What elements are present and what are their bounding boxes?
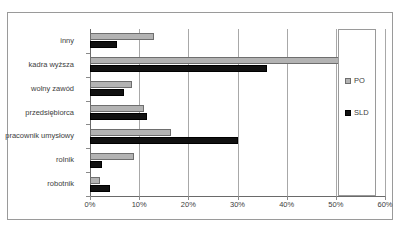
x-axis-tick-label: 10% <box>132 200 147 209</box>
bar-po <box>90 33 154 40</box>
y-axis-category-label: rolnik <box>56 156 74 164</box>
x-axis-tick-label: 30% <box>230 200 245 209</box>
legend-swatch-sld-icon <box>345 110 351 116</box>
bar-po <box>90 81 132 88</box>
bar-po <box>90 129 171 136</box>
y-axis-category-label: wolny zawód <box>31 85 74 93</box>
bar-po <box>90 105 144 112</box>
legend-item-sld: SLD <box>345 108 369 117</box>
bar-sld <box>90 89 124 96</box>
x-axis-tick-label: 20% <box>181 200 196 209</box>
bar-sld <box>90 41 117 48</box>
legend-item-po: PO <box>345 76 365 85</box>
x-axis-tick-label: 60% <box>377 200 392 209</box>
gridline <box>385 29 386 196</box>
bar-sld <box>90 113 147 120</box>
x-axis-tick-label: 40% <box>279 200 294 209</box>
y-axis-tick-mark <box>86 172 90 173</box>
y-axis-category-label: inny <box>60 37 74 45</box>
bar-sld <box>90 185 110 192</box>
y-axis-tick-mark <box>86 124 90 125</box>
bar-sld <box>90 161 102 168</box>
y-axis-category-label: kadra wyższa <box>29 61 74 69</box>
x-axis-tick-label: 0% <box>85 200 96 209</box>
y-axis-tick-mark <box>86 77 90 78</box>
legend-label-po: PO <box>354 76 365 85</box>
bar-sld <box>90 137 238 144</box>
bar-po <box>90 177 100 184</box>
x-axis-tick-label: 50% <box>328 200 343 209</box>
bar-sld <box>90 65 267 72</box>
y-axis-tick-mark <box>86 101 90 102</box>
legend-label-sld: SLD <box>354 108 369 117</box>
bar-po <box>90 57 341 64</box>
y-axis-tick-mark <box>86 148 90 149</box>
y-axis-category-label: pracownik umysłowy <box>5 132 74 140</box>
bar-po <box>90 153 134 160</box>
legend: PO SLD <box>338 29 376 196</box>
y-axis-tick-mark <box>86 53 90 54</box>
legend-swatch-po-icon <box>345 78 351 84</box>
chart-frame: innykadra wyższawolny zawódprzedsiębiorc… <box>7 12 393 220</box>
y-axis-category-label: przedsiębiorca <box>25 109 74 117</box>
y-axis-category-label: robotnik <box>47 180 74 188</box>
